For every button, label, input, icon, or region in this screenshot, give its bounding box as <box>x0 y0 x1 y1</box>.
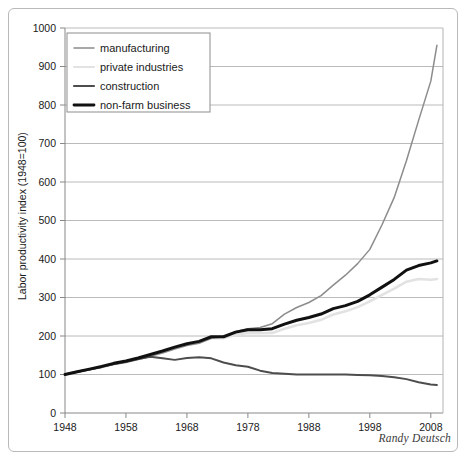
line-chart: 01002003004005006007008009001000 1948195… <box>0 0 468 460</box>
legend-label-non-farm-business: non-farm business <box>100 99 191 111</box>
x-axis-ticks-group: 1948195819681978198819982008 <box>53 413 442 433</box>
y-axis-ticks-group: 01002003004005006007008009001000 <box>33 22 65 419</box>
legend-label-manufacturing: manufacturing <box>100 42 170 54</box>
chart-plot-wrapper: 01002003004005006007008009001000 1948195… <box>0 0 468 460</box>
y-axis-title: Labor productivity index (1948=100) <box>16 132 28 300</box>
series-line-non-farm-business <box>65 261 437 375</box>
y-tick-label: 400 <box>38 253 56 265</box>
x-tick-label: 1958 <box>114 421 138 433</box>
x-tick-label: 1948 <box>53 421 77 433</box>
series-line-private-industries <box>65 279 437 374</box>
x-tick-label: 1968 <box>175 421 199 433</box>
chart-page: 01002003004005006007008009001000 1948195… <box>0 0 468 460</box>
y-tick-label: 700 <box>38 137 56 149</box>
x-tick-label: 1978 <box>236 421 260 433</box>
y-tick-label: 1000 <box>33 22 57 34</box>
legend-label-private-industries: private industries <box>100 61 184 73</box>
x-tick-label: 1988 <box>297 421 321 433</box>
y-tick-label: 300 <box>38 291 56 303</box>
y-tick-label: 900 <box>38 60 56 72</box>
y-tick-label: 600 <box>38 176 56 188</box>
y-tick-label: 200 <box>38 330 56 342</box>
credit-attribution: Randy Deutsch <box>378 432 451 444</box>
y-tick-label: 0 <box>50 407 56 419</box>
chart-legend: manufacturingprivate industriesconstruct… <box>67 33 210 112</box>
y-tick-label: 500 <box>38 214 56 226</box>
y-tick-label: 100 <box>38 368 56 380</box>
y-tick-label: 800 <box>38 99 56 111</box>
legend-label-construction: construction <box>100 80 159 92</box>
